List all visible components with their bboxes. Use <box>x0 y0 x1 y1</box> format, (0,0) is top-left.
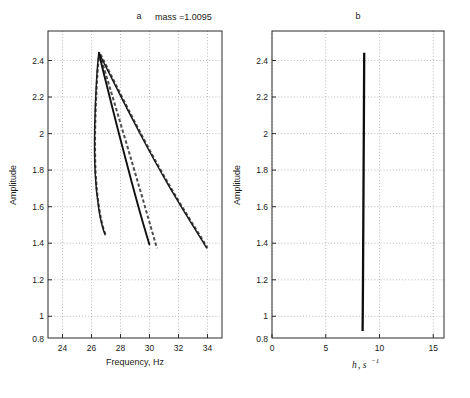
panel-b-vertical-gridlines <box>272 31 433 338</box>
panel-a-horizontal-gridlines <box>48 61 222 317</box>
panel-b-xaxis-label-h: h <box>352 360 357 370</box>
panel-a-vertical-gridlines <box>63 31 208 338</box>
panel-a-xaxis-label: Frequency, Hz <box>106 357 164 367</box>
panel-a-ytick-2.4: 2.4 <box>32 56 44 66</box>
panel-a-curves <box>95 53 208 249</box>
panel-a-y-tickmarks <box>48 61 52 317</box>
panel-a-frame <box>48 31 222 338</box>
panel-a-title: mass =1.0095 <box>155 12 212 22</box>
panel-b-ytick-2.4: 2.4 <box>256 56 268 66</box>
panel-b-x-tickmarks <box>272 334 433 338</box>
figure-svg: a mass =1.0095 <box>0 0 470 398</box>
panel-b-horizontal-gridlines <box>272 61 444 317</box>
curve-left-branch-solid <box>95 53 106 235</box>
panel-b-yaxis-label: Amplitude <box>232 165 242 205</box>
panel-a: a mass =1.0095 <box>8 11 222 367</box>
panel-b-ytick-1.6: 1.6 <box>256 202 268 212</box>
panel-b-xtick-5: 5 <box>323 343 328 353</box>
panel-b-curves <box>363 53 365 331</box>
panel-b-y-tickmarks <box>272 61 276 317</box>
panel-a-label: a <box>136 11 141 21</box>
panel-b-xaxis-label: h , s −1 <box>352 357 379 370</box>
panel-b-ytick-1.8: 1.8 <box>256 165 268 175</box>
panel-b-ytick-2: 2 <box>263 129 268 139</box>
panel-a-ytick-1: 1 <box>39 311 44 321</box>
panel-a-yaxis-label: Amplitude <box>8 165 18 205</box>
panel-b-xtick-0: 0 <box>270 343 275 353</box>
panel-b-label: b <box>355 11 360 21</box>
panel-a-xtick-30: 30 <box>145 343 155 353</box>
panel-a-xtick-34: 34 <box>203 343 213 353</box>
panel-a-ytick-1.4: 1.4 <box>32 238 44 248</box>
panel-a-xtick-24: 24 <box>58 343 68 353</box>
panel-b-ytick-2.2: 2.2 <box>256 92 268 102</box>
curve-right-branch-dashed <box>101 55 208 248</box>
panel-a-x-tickmarks <box>63 334 208 338</box>
panel-b-ytick-1.2: 1.2 <box>256 275 268 285</box>
panel-a-xtick-28: 28 <box>116 343 126 353</box>
panel-b-xtick-15: 15 <box>429 343 439 353</box>
panel-b-xaxis-label-exponent: −1 <box>371 357 379 365</box>
panel-a-ytick-0.8: 0.8 <box>32 334 44 344</box>
panel-b-ytick-0.8: 0.8 <box>256 334 268 344</box>
panel-a-ytick-1.6: 1.6 <box>32 202 44 212</box>
panel-a-ytick-1.2: 1.2 <box>32 275 44 285</box>
figure-container: a mass =1.0095 <box>0 0 470 398</box>
panel-b-ytick-1: 1 <box>263 311 268 321</box>
panel-a-xtick-26: 26 <box>87 343 97 353</box>
panel-b-ytick-1.4: 1.4 <box>256 238 268 248</box>
panel-b-frame <box>272 31 444 338</box>
curve-inner-branch-dashed <box>100 55 157 249</box>
panel-b: b <box>232 11 444 370</box>
panel-b-xtick-10: 10 <box>375 343 385 353</box>
curve-damping-vertical <box>363 53 365 331</box>
panel-a-ytick-1.8: 1.8 <box>32 165 44 175</box>
panel-b-xaxis-label-s: , s <box>358 360 367 370</box>
panel-a-ytick-2.2: 2.2 <box>32 92 44 102</box>
panel-a-ytick-2: 2 <box>39 129 44 139</box>
curve-backbone-solid <box>99 53 149 245</box>
panel-a-xtick-32: 32 <box>174 343 184 353</box>
